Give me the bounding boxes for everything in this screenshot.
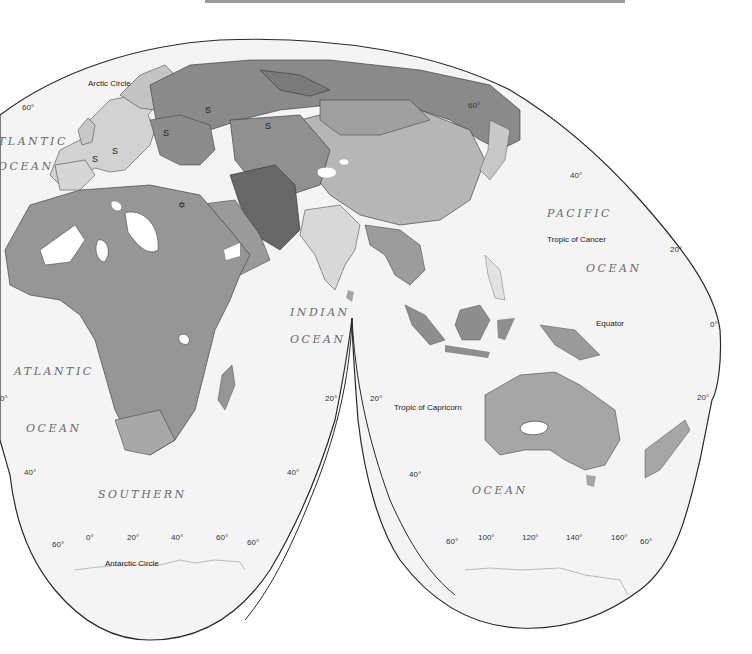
lat-label-60n-west: 60° [22, 103, 34, 112]
lon-label-100e: 100° [478, 533, 495, 542]
lat-label-40n-east: 40° [570, 171, 582, 180]
lon-label-20e: 20° [127, 533, 139, 542]
pacific-ocean-label-2: OCEAN [586, 262, 642, 275]
lat-label-20s-gap-right: 20° [370, 394, 382, 403]
lat-label-60n-east: 60° [468, 101, 480, 110]
s-marker-russia: S [205, 105, 211, 115]
star-marker-israel: ✡ [178, 200, 186, 210]
tropic-of-cancer-label: Tropic of Cancer [547, 235, 606, 244]
lat-label-60s-c: 60° [446, 537, 458, 546]
lat-label-20n-east: 20° [670, 245, 682, 254]
lat-label-0-east: 0° [710, 320, 718, 329]
tibet-white-2 [340, 159, 349, 165]
atlantic-ocean-south-label-2: OCEAN [26, 422, 82, 435]
lat-label-60s-b: 60° [247, 538, 259, 547]
s-marker-france: S [92, 154, 98, 164]
southern-ocean-label: SOUTHERN [98, 488, 187, 501]
lon-label-160e: 160° [611, 533, 628, 542]
s-marker-ukraine: S [163, 128, 169, 138]
lon-label-60e: 60° [216, 533, 228, 542]
atlantic-ocean-south-label-1: ATLANTIC [14, 365, 94, 378]
indian-ocean-label-1: INDIAN [290, 306, 350, 319]
lat-label-40s-west: 40° [24, 468, 36, 477]
indian-ocean-label-2: OCEAN [290, 333, 346, 346]
lat-label-20s-gap-left: 20° [325, 394, 337, 403]
lat-label-40s-gap-right: 40° [409, 470, 421, 479]
s-marker-central-europe: S [112, 146, 118, 156]
lat-label-60s-d: 60° [640, 537, 652, 546]
s-marker-kazakhstan: S [265, 121, 271, 131]
world-map [0, 0, 752, 654]
lat-label-40s-gap-left: 40° [287, 468, 299, 477]
equator-label: Equator [596, 319, 624, 328]
atlantic-ocean-north-label-2: OCEAN [0, 160, 54, 173]
antarctic-circle-label: Antarctic Circle [105, 559, 159, 568]
lon-label-140e: 140° [566, 533, 583, 542]
lat-label-60s-a: 60° [52, 540, 64, 549]
australia-desert [520, 421, 548, 435]
lon-label-0: 0° [86, 533, 94, 542]
southern-ocean-east-label: OCEAN [472, 484, 528, 497]
arctic-circle-label: Arctic Circle [88, 79, 131, 88]
pacific-ocean-label-1: PACIFIC [547, 207, 612, 220]
lon-label-40e: 40° [171, 533, 183, 542]
lat-label-20s-west: 0° [0, 394, 8, 403]
lat-label-20s-east: 20° [697, 393, 709, 402]
tropic-of-capricorn-label: Tropic of Capricorn [394, 403, 462, 412]
lon-label-120e: 120° [522, 533, 539, 542]
atlantic-ocean-north-label-1: TLANTIC [0, 135, 68, 148]
